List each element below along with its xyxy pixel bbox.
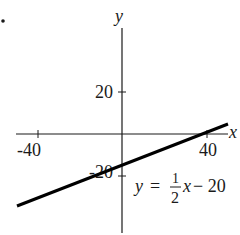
equation-rest: − 20 xyxy=(193,176,226,196)
x-tick-label-40: 40 xyxy=(199,140,217,160)
y-tick-label-20: 20 xyxy=(95,82,113,102)
fraction-numerator: 1 xyxy=(172,171,179,186)
y-axis-label: y xyxy=(113,6,123,26)
equation-equals: = xyxy=(150,176,160,196)
equation-label: y = 1 2 x − 20 xyxy=(133,171,226,206)
graph: y x -40 40 20 -20 y = 1 2 x − 20 xyxy=(0,0,240,235)
fraction-denominator: 2 xyxy=(171,189,179,206)
x-axis-label: x xyxy=(228,122,237,142)
problem-marker-dot xyxy=(1,19,5,23)
equation-lhs: y xyxy=(133,176,143,196)
x-tick-label-neg40: -40 xyxy=(17,140,41,160)
equation-var: x xyxy=(182,176,191,196)
